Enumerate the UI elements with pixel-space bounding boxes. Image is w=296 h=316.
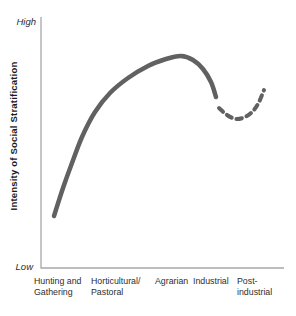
x-label-line: Post-	[237, 276, 272, 287]
x-label-line: Pastoral	[91, 287, 140, 298]
projected-curve	[219, 90, 264, 119]
x-label-line: Industrial	[193, 276, 229, 287]
x-label-horticultural-pastoral: Horticultural/ Pastoral	[91, 276, 140, 297]
x-label-hunting-and-gathering: Hunting and Gathering	[34, 276, 81, 297]
x-label-line: Horticultural/	[91, 276, 140, 287]
x-label-post-industrial: Post- industrial	[237, 276, 272, 297]
x-label-industrial: Industrial	[193, 276, 229, 287]
x-label-line: industrial	[237, 287, 272, 298]
x-label-line: Gathering	[34, 287, 81, 298]
observed-curve	[54, 56, 216, 216]
plot-canvas	[0, 0, 296, 316]
stratification-chart: Intensity of Social Stratification High …	[0, 0, 296, 316]
x-label-line: Hunting and	[34, 276, 81, 287]
x-label-agrarian: Agrarian	[155, 276, 188, 287]
x-label-line: Agrarian	[155, 276, 188, 287]
